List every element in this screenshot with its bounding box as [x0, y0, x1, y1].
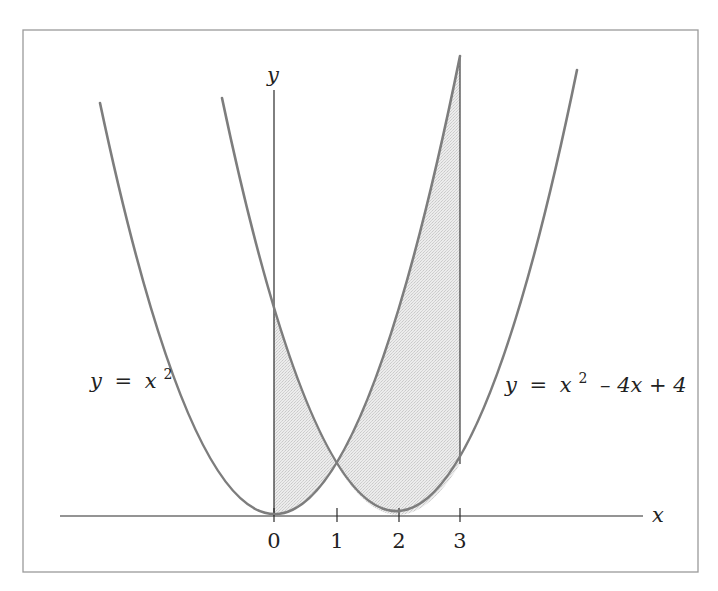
label-y-equals-x2-minus-4x-plus-4: y = x 2 – 4x + 4 — [504, 364, 687, 397]
label-y-equals-x-squared: y = x 2 — [89, 366, 172, 393]
label-rest: – 4x + 4 — [600, 373, 687, 397]
shaded-region — [274, 56, 460, 515]
label-exp: 2 — [578, 370, 587, 386]
x-axis-label: x — [652, 503, 664, 527]
label-lhs: y — [89, 369, 103, 393]
graph-figure: 0 1 2 3 x y y = x 2 y = x 2 – 4x + 4 — [0, 0, 718, 591]
x-ticks — [274, 508, 460, 522]
shaded-region-left — [274, 311, 336, 515]
tick-label-2: 2 — [392, 529, 405, 553]
label-lhs: y — [504, 373, 518, 397]
shaded-region-right — [336, 56, 460, 515]
label-eq: = — [115, 369, 133, 393]
tick-label-1: 1 — [330, 529, 343, 553]
label-base: x — [560, 373, 572, 397]
tick-label-3: 3 — [453, 529, 466, 553]
x-tick-labels: 0 1 2 3 — [267, 529, 466, 553]
tick-label-0: 0 — [267, 529, 280, 553]
y-axis-label: y — [266, 63, 280, 87]
label-base: x — [145, 369, 157, 393]
label-exp: 2 — [163, 366, 172, 382]
label-eq: = — [530, 373, 548, 397]
